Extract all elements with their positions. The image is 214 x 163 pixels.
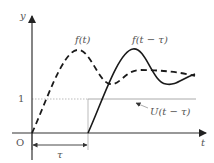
f-t-dashed-curve bbox=[32, 50, 195, 133]
step-label-pointer bbox=[136, 103, 148, 108]
t-axis-label: t bbox=[201, 137, 206, 148]
unit-tick-label: 1 bbox=[18, 93, 24, 104]
origin-label: O bbox=[16, 137, 24, 148]
step-function-label: U(t − τ) bbox=[150, 106, 191, 117]
tau-label: τ bbox=[57, 149, 63, 160]
y-axis-label: y bbox=[19, 10, 26, 21]
time-shift-diagram: y t O 1 f(t) f(t − τ) U(t − τ) τ bbox=[0, 0, 214, 163]
f-t-label: f(t) bbox=[74, 34, 91, 45]
f-t-minus-tau-label: f(t − τ) bbox=[131, 34, 168, 45]
f-t-minus-tau-solid-curve bbox=[88, 49, 195, 133]
